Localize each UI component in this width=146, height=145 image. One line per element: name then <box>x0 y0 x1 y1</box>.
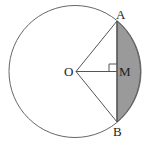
circle-chord-diagram: O A B M <box>0 0 146 145</box>
label-a: A <box>116 7 126 22</box>
right-angle-marker <box>109 64 117 72</box>
radius-ob <box>76 72 117 123</box>
label-b: B <box>113 124 122 139</box>
label-o: O <box>64 64 73 79</box>
label-m: M <box>119 64 131 79</box>
